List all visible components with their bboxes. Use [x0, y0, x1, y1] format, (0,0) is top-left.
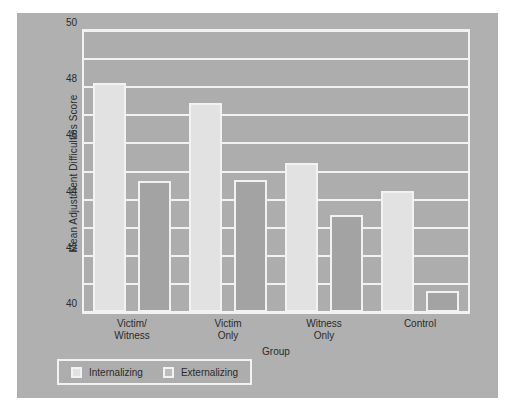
legend-label-internalizing: Internalizing: [89, 367, 143, 378]
y-tick-label: 48: [66, 73, 77, 84]
plot-inner: 4042444648505254565860: [84, 31, 468, 312]
x-tick-label: Control: [372, 318, 468, 330]
legend-item-internalizing: Internalizing: [71, 367, 143, 378]
bar-internalizing-0: [93, 83, 126, 312]
gridline: 58: [84, 58, 468, 60]
x-tick-label: Victim Only: [180, 318, 276, 342]
bar-externalizing-2: [330, 215, 363, 312]
chart-legend: Internalizing Externalizing: [57, 359, 252, 385]
legend-swatch-externalizing: [163, 367, 174, 378]
bar-internalizing-2: [285, 163, 318, 312]
x-tick-label: Witness Only: [276, 318, 372, 342]
y-tick-label: 44: [66, 185, 77, 196]
gridline: 56: [84, 86, 468, 88]
chart-figure: Mean Adjustment Difficulties Score 40424…: [17, 13, 498, 398]
gridline: 52: [84, 142, 468, 144]
bar-internalizing-1: [189, 103, 222, 312]
plot-area: 4042444648505254565860: [82, 29, 470, 314]
y-tick-label: 46: [66, 129, 77, 140]
gridline: 60: [84, 30, 468, 32]
y-tick-label: 42: [66, 241, 77, 252]
bar-externalizing-0: [138, 181, 171, 312]
gridline: 50: [84, 171, 468, 173]
legend-item-externalizing: Externalizing: [163, 367, 238, 378]
y-tick-label: 40: [66, 298, 77, 309]
bar-internalizing-3: [381, 191, 414, 312]
bar-externalizing-3: [426, 291, 459, 312]
legend-swatch-internalizing: [71, 367, 82, 378]
bar-externalizing-1: [234, 180, 267, 312]
x-axis-title: Group: [82, 346, 470, 357]
gridline: 54: [84, 114, 468, 116]
legend-label-externalizing: Externalizing: [181, 367, 238, 378]
y-tick-label: 50: [66, 17, 77, 28]
x-tick-label: Victim/ Witness: [84, 318, 180, 342]
